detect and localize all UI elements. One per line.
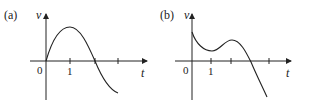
tick-label-1: 1	[208, 65, 214, 77]
figure: (a) v 0 1 t (b) v 0 1 t	[0, 0, 315, 109]
velocity-curve	[46, 27, 118, 93]
panel-a: (a) v 0 1 t	[4, 8, 147, 100]
y-axis-label: v	[36, 8, 42, 22]
y-axis-label: v	[184, 8, 190, 22]
panel-label: (a)	[4, 8, 17, 22]
x-axis-label: t	[286, 66, 290, 80]
tick-label-1: 1	[67, 65, 73, 77]
panel-b: (b) v 0 1 t	[160, 8, 291, 100]
panel-label: (b)	[160, 8, 174, 22]
velocity-curve	[192, 32, 267, 97]
origin-label: 0	[183, 64, 189, 76]
origin-label: 0	[37, 64, 43, 76]
x-axis-label: t	[141, 66, 145, 80]
